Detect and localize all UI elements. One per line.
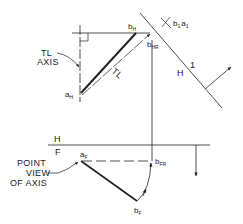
descriptive-geometry-diagram: bH bHR aH TL TL AXIS b1a1 H 1 H F aF bFR… bbox=[0, 0, 243, 224]
callout-arrow-point-view bbox=[48, 162, 78, 173]
label-bf: bF bbox=[134, 206, 142, 216]
line-ab-top bbox=[81, 33, 136, 93]
aux-arrow bbox=[205, 67, 231, 89]
rotation-arc bbox=[137, 163, 151, 201]
fold-label-h: H bbox=[177, 68, 184, 78]
label-ah: aH bbox=[65, 90, 73, 100]
callout-axis: AXIS bbox=[37, 57, 59, 67]
label-bhr: bHR bbox=[147, 40, 159, 50]
callout-point: POINT bbox=[17, 158, 46, 168]
callout-view: VIEW bbox=[26, 168, 50, 178]
callout-arrow-tl-axis bbox=[57, 53, 79, 67]
label-bh: bH bbox=[128, 22, 136, 32]
fold-label-1: 1 bbox=[190, 60, 195, 70]
callout-of-axis: OF AXIS bbox=[10, 178, 47, 188]
true-length-line bbox=[82, 34, 150, 95]
line-ab-front bbox=[81, 161, 137, 201]
fold-label-h-front: H bbox=[54, 134, 61, 144]
right-angle-marker bbox=[80, 33, 88, 41]
fold-label-f: F bbox=[55, 147, 61, 157]
label-tl: TL bbox=[110, 66, 125, 81]
arc-arrow-mid bbox=[143, 189, 146, 196]
label-b1a1: b1a1 bbox=[173, 19, 189, 29]
label-bfr: bFR bbox=[155, 157, 167, 167]
label-af: aF bbox=[80, 150, 88, 160]
